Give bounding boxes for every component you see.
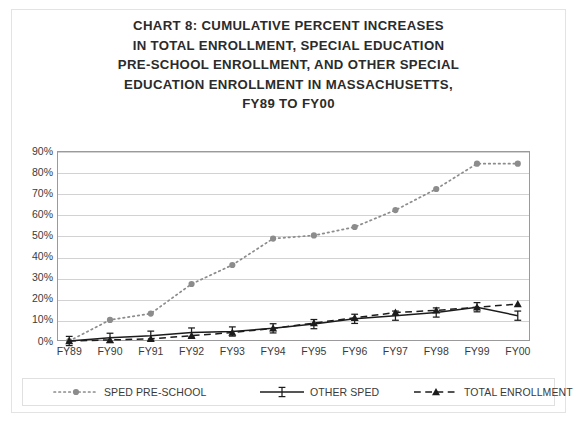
- chart-legend: SPED PRE-SCHOOLOTHER SPEDTOTAL ENROLLMEN…: [22, 378, 555, 406]
- legend-item-sped-pre-school[interactable]: SPED PRE-SCHOOL: [53, 384, 206, 400]
- y-axis-tick-label: 60%: [32, 209, 53, 220]
- x-axis-tick-label-fy97: FY97: [383, 345, 408, 357]
- x-axis-tick-label-fy96: FY96: [342, 345, 367, 357]
- legend-label: OTHER SPED: [310, 386, 379, 398]
- x-axis-tick-label-fy89: FY89: [57, 345, 82, 357]
- series-total-enrollment: [65, 300, 522, 344]
- y-axis-tick-label: 0%: [38, 336, 53, 347]
- x-axis-tick-label-fy99: FY99: [464, 345, 489, 357]
- data-point-marker-circle: [311, 232, 317, 238]
- x-axis-tick-label-fy90: FY90: [97, 345, 122, 357]
- chart-title-line-1: CHART 8: CUMULATIVE PERCENT INCREASES: [30, 16, 547, 36]
- data-point-marker-circle: [107, 317, 113, 323]
- data-point-marker-circle: [270, 236, 276, 242]
- y-axis-tick-label: 20%: [32, 293, 53, 304]
- chart-title-line-5: FY89 TO FY00: [30, 94, 547, 114]
- legend-key-ibar-icon: [259, 385, 305, 399]
- x-axis-tick-label-fy91: FY91: [138, 345, 163, 357]
- y-axis-tick-label: 30%: [32, 272, 53, 283]
- data-point-marker-circle: [515, 161, 521, 167]
- y-axis-tick-label: 40%: [32, 251, 53, 262]
- data-point-marker-circle: [474, 161, 480, 167]
- x-axis-tick-label-fy93: FY93: [220, 345, 245, 357]
- series-line: [69, 307, 518, 341]
- series-sped-pre-school: [66, 161, 521, 345]
- chart-title-line-3: PRE-SCHOOL ENROLLMENT, AND OTHER SPECIAL: [30, 55, 547, 75]
- x-axis-tick-label-fy94: FY94: [261, 345, 286, 357]
- legend-key-triangle-icon: [413, 385, 459, 399]
- x-axis-tick-label-fy92: FY92: [179, 345, 204, 357]
- legend-label: TOTAL ENROLLMENT: [464, 386, 573, 398]
- data-point-marker-circle: [73, 389, 79, 395]
- y-axis-tick-label: 80%: [32, 167, 53, 178]
- legend-label: SPED PRE-SCHOOL: [104, 386, 206, 398]
- chart-page: CHART 8: CUMULATIVE PERCENT INCREASES IN…: [0, 0, 577, 424]
- x-axis-tick-label-fy00: FY00: [505, 345, 530, 357]
- x-axis-tick-label-fy95: FY95: [301, 345, 326, 357]
- x-axis-tick-label-fy98: FY98: [424, 345, 449, 357]
- data-point-marker-circle: [148, 310, 154, 316]
- data-point-marker-circle: [229, 262, 235, 268]
- legend-key-circle-icon: [53, 385, 99, 399]
- legend-item-other-sped[interactable]: OTHER SPED: [259, 384, 379, 400]
- data-point-marker-circle: [433, 186, 439, 192]
- data-point-marker-circle: [392, 207, 398, 213]
- legend-item-total-enrollment[interactable]: TOTAL ENROLLMENT: [413, 384, 573, 400]
- y-axis-tick-label: 90%: [32, 146, 53, 157]
- y-axis-tick-label: 50%: [32, 230, 53, 241]
- chart-title-line-4: EDUCATION ENROLLMENT IN MASSACHUSETTS,: [30, 75, 547, 95]
- data-point-marker-circle: [352, 224, 358, 230]
- data-point-marker-circle: [188, 281, 194, 287]
- chart-title-line-2: IN TOTAL ENROLLMENT, SPECIAL EDUCATION: [30, 36, 547, 56]
- y-axis: 0%10%20%30%40%50%60%70%80%90%: [22, 144, 53, 348]
- y-axis-tick-label: 70%: [32, 188, 53, 199]
- series-line: [69, 304, 518, 341]
- chart-title: CHART 8: CUMULATIVE PERCENT INCREASES IN…: [30, 16, 547, 114]
- chart-series-layer: [57, 151, 530, 341]
- data-point-marker-triangle: [514, 300, 522, 307]
- series-line: [69, 164, 518, 341]
- x-axis: FY89FY90FY91FY92FY93FY94FY95FY96FY97FY98…: [57, 345, 530, 361]
- y-axis-tick-label: 10%: [32, 314, 53, 325]
